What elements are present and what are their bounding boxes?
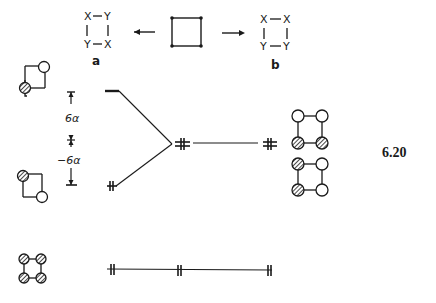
corner-tl-a: X xyxy=(84,10,92,23)
corner-bl-a: Y xyxy=(83,38,91,51)
orbital-top-left xyxy=(20,62,50,97)
label-b: b xyxy=(271,58,280,72)
orbital-right-upper xyxy=(292,110,328,149)
corner-bl-b: Y xyxy=(259,40,267,53)
figure-number: 6.20 xyxy=(382,145,407,160)
corner-tl-b: X xyxy=(260,13,268,26)
correlation-lines xyxy=(105,91,277,270)
square-a: X Y Y X a xyxy=(83,10,112,68)
gap-label-upper: 6α xyxy=(65,112,80,125)
electron-pair-markers xyxy=(110,138,271,276)
gap-label-lower: −6α xyxy=(57,154,81,167)
orbital-mid-left xyxy=(18,171,48,203)
central-square xyxy=(170,16,203,48)
arrow-left-icon xyxy=(134,29,155,35)
corner-br-b: Y xyxy=(282,40,290,53)
orbital-right-lower xyxy=(292,158,328,196)
orbital-bottom-left xyxy=(19,254,46,283)
label-a: a xyxy=(92,54,100,68)
gap-marker xyxy=(66,92,77,185)
corner-tr-a: Y xyxy=(103,10,111,23)
square-b: X X Y Y b xyxy=(259,13,291,72)
arrow-right-icon xyxy=(222,30,245,36)
corner-br-a: X xyxy=(104,38,112,51)
energy-level-diagram: X Y Y X a X X Y Y b xyxy=(0,0,436,303)
corner-tr-b: X xyxy=(283,13,291,26)
